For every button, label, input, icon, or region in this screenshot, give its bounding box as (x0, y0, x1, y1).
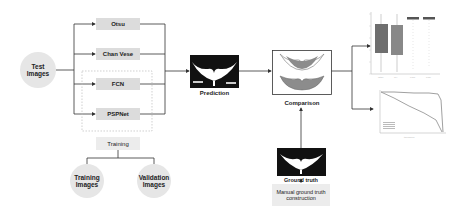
svg-text:FCN: FCN (410, 76, 415, 79)
manual-ground-truth-box: Manual ground truth construction (272, 184, 330, 206)
svg-text:PSP: PSP (426, 76, 431, 79)
comparison-image (272, 50, 332, 95)
training-box: Training (96, 137, 140, 150)
method-pspnet: PSPNet (96, 108, 140, 120)
method-otsu: Otsu (96, 18, 140, 30)
svg-text:CV: CV (394, 76, 398, 79)
ground-truth-label: Ground truth (268, 177, 334, 183)
ground-truth-image (277, 148, 326, 176)
validation-images-node: Validation Images (137, 164, 171, 198)
training-images-node: Training Images (70, 164, 104, 198)
boxplot-chart: OtsuCVFCNPSP (365, 10, 445, 82)
prediction-image (190, 55, 239, 88)
test-images-node: Test Images (20, 52, 56, 88)
method-chan-vese: Chan Vese (96, 48, 140, 60)
comparison-label: Comparison (268, 100, 336, 106)
line-chart: threshold (374, 88, 449, 140)
svg-text:Otsu: Otsu (378, 76, 384, 79)
method-fcn: FCN (96, 78, 140, 90)
prediction-label: Prediction (185, 90, 244, 96)
svg-text:threshold: threshold (404, 136, 415, 139)
